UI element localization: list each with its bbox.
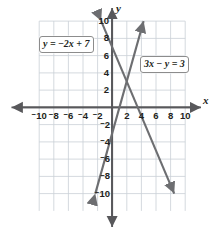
x-tick-label: 2 xyxy=(124,111,129,121)
x-tick-label: −4 xyxy=(78,111,88,121)
y-tick-label: 2 xyxy=(104,85,109,95)
y-tick-label: −2 xyxy=(100,120,110,130)
x-tick-label: −8 xyxy=(49,111,59,121)
equation-label-line2-text: 3x − y = 3 xyxy=(144,58,185,69)
x-tick-label: 10 xyxy=(180,111,191,121)
coordinate-plane-figure: −10 −8 −6 −4 −2 2 4 6 8 10 10 8 6 4 2 −2… xyxy=(0,0,219,231)
equation-label-line1: y = −2x + 7 xyxy=(39,36,94,53)
y-tick-label: −6 xyxy=(100,154,110,164)
y-axis-label: y xyxy=(116,3,121,14)
y-tick-label: 6 xyxy=(104,51,109,61)
x-tick-label: −10 xyxy=(32,111,47,121)
y-tick-label: −8 xyxy=(100,172,110,182)
equation-label-line2: 3x − y = 3 xyxy=(140,56,189,73)
x-tick-label: 4 xyxy=(139,111,144,121)
x-tick-label: 6 xyxy=(153,111,158,121)
y-tick-label: −10 xyxy=(95,189,110,199)
page-edge-artifact xyxy=(12,219,58,228)
equation-label-line1-text: y = −2x + 7 xyxy=(43,38,90,49)
x-axis-label: x xyxy=(203,95,209,106)
y-tick-label: 10 xyxy=(98,16,109,26)
y-tick-label: −4 xyxy=(100,137,110,147)
x-tick-label: −6 xyxy=(63,111,73,121)
y-tick-label: 4 xyxy=(104,68,109,78)
x-tick-label: 8 xyxy=(168,111,173,121)
y-tick-label: 8 xyxy=(104,34,109,44)
